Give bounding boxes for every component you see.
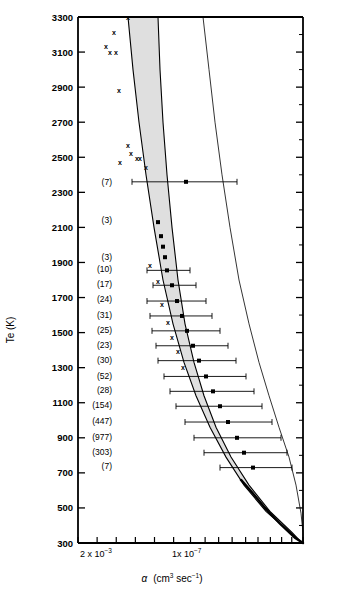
data-point-marker	[185, 329, 189, 333]
data-point-marker	[184, 180, 188, 184]
scatter-x-marker: x	[118, 159, 122, 166]
sample-count-label: (3)	[102, 215, 113, 225]
y-tick-label: 3100	[52, 47, 73, 58]
sample-count-label: (3)	[102, 252, 113, 262]
scatter-x-marker: x	[148, 262, 152, 269]
sample-count-label: (28)	[97, 385, 112, 395]
y-tick-label: 2900	[52, 82, 73, 93]
sample-count-label: (17)	[97, 279, 112, 289]
sample-count-label: (447)	[92, 416, 112, 426]
scatter-x-marker: x	[112, 29, 116, 36]
y-tick-label: 1700	[52, 292, 73, 303]
scatter-x-marker: x	[181, 364, 185, 371]
data-point-marker	[156, 220, 160, 224]
data-point-marker	[204, 374, 208, 378]
y-tick-label: 2500	[52, 152, 73, 163]
sample-count-labels: (7)(3)(3)(10)(17)(24)(31)(25)(23)(30)(52…	[92, 177, 112, 471]
scatter-x-marker: x	[160, 301, 164, 308]
y-tick-label: 1100	[52, 397, 73, 408]
y-tick-label: 1500	[52, 327, 73, 338]
sample-count-label: (24)	[97, 294, 112, 304]
sample-count-label: (154)	[92, 400, 112, 410]
data-point-marker	[165, 268, 169, 272]
y-tick-label: 700	[57, 467, 73, 478]
y-tick-label: 2100	[52, 222, 73, 233]
sample-count-label: (25)	[97, 325, 112, 335]
x-axis-title: α(cm3 sec−1)	[141, 572, 202, 584]
sample-count-label: (7)	[102, 461, 113, 471]
sample-count-label: (303)	[92, 447, 112, 457]
scatter-x-marker: x	[126, 142, 130, 149]
sample-count-label: (31)	[97, 310, 112, 320]
data-point-marker	[235, 436, 239, 440]
scatter-x-marker: x	[108, 49, 112, 56]
data-point-marker	[218, 404, 222, 408]
y-tick-label: 300	[57, 538, 73, 549]
scatter-x-marker: x	[138, 155, 142, 162]
scatter-x-marker: x	[156, 278, 160, 285]
data-point-marker	[163, 255, 167, 259]
y-tick-label: 900	[57, 432, 73, 443]
scatter-x-marker: x	[144, 164, 148, 171]
scatter-x-marker: x	[114, 49, 118, 56]
data-point-marker	[161, 245, 165, 249]
sample-count-label: (10)	[97, 264, 112, 274]
data-point-marker	[191, 344, 195, 348]
y-tick-label: 3300	[52, 12, 73, 23]
y-axis-tick-labels: 3005007009001100130015001700190021002300…	[52, 12, 73, 549]
data-point-marker	[159, 234, 163, 238]
figure-container: xxxxxxxxxxxxxxxxxxx 30050070090011001300…	[0, 0, 348, 599]
data-point-marker	[226, 420, 230, 424]
scatter-x-marker: x	[176, 348, 180, 355]
comparison-curve	[203, 17, 303, 543]
sample-count-label: (977)	[92, 432, 112, 442]
sample-count-label: (30)	[97, 355, 112, 365]
scatter-x-marker: x	[117, 87, 121, 94]
sample-count-label: (23)	[97, 340, 112, 350]
x-tick-label-left: 2 x 10−3	[80, 547, 112, 559]
x-tick-label-right: 1x 10−7	[172, 547, 202, 559]
data-point-marker	[211, 389, 215, 393]
scatter-x-marker: x	[129, 150, 133, 157]
scatter-x-marker: x	[170, 334, 174, 341]
data-point-marker	[242, 451, 246, 455]
sample-count-label: (52)	[97, 371, 112, 381]
data-point-marker	[180, 314, 184, 318]
y-tick-label: 2300	[52, 187, 73, 198]
data-point-marker	[251, 466, 255, 470]
y-tick-label: 1300	[52, 362, 73, 373]
y-axis-title: Te (K)	[5, 317, 16, 344]
data-point-marker	[170, 283, 174, 287]
data-point-marker	[197, 359, 201, 363]
data-point-marker	[175, 299, 179, 303]
y-tick-label: 1900	[52, 257, 73, 268]
sample-count-label: (7)	[102, 177, 113, 187]
uncertainty-band	[128, 17, 302, 543]
y-tick-label: 2700	[52, 117, 73, 128]
recombination-coefficient-plot: xxxxxxxxxxxxxxxxxxx 30050070090011001300…	[0, 0, 348, 599]
y-tick-label: 500	[57, 502, 73, 513]
scatter-x-marker: x	[166, 319, 170, 326]
